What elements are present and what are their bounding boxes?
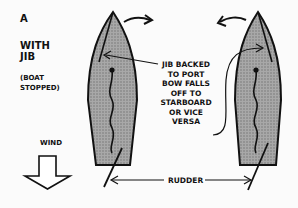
heading-line-2: JIB [20, 51, 50, 62]
jib-note: JIB BACKED TO PORT BOW FALLS OFF TO STAR… [145, 60, 227, 127]
jib-note-line: OFF TO [145, 89, 227, 99]
curved-arrow-right-icon [124, 15, 152, 24]
wind-label: WIND [40, 140, 62, 147]
panel-label: A [20, 14, 28, 24]
wind-arrow-down-icon [25, 156, 70, 189]
jib-note-line: OR VICE [145, 108, 227, 118]
left-boat-hull [88, 12, 137, 187]
rudder-label: RUDDER [166, 177, 205, 185]
jib-note-line: JIB BACKED [145, 60, 227, 70]
right-boat-hull [235, 12, 281, 190]
heading-line-1: WITH [20, 40, 50, 51]
subheading-line-1: (BOAT [20, 73, 60, 83]
subheading-line-2: STOPPED) [20, 83, 60, 93]
heading: WITH JIB [20, 40, 50, 62]
jib-note-line: VERSA [145, 117, 227, 127]
jib-note-line: STARBOARD [145, 98, 227, 108]
jib-note-line: BOW FALLS [145, 79, 227, 89]
subheading: (BOAT STOPPED) [20, 73, 60, 93]
jib-note-line: TO PORT [145, 70, 227, 80]
diagram-canvas: A WITH JIB (BOAT STOPPED) WIND JIB BACKE… [0, 0, 298, 208]
curved-arrow-left-icon [218, 16, 246, 26]
